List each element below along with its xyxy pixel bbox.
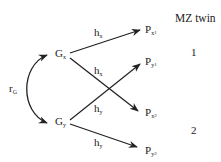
correlation-label: rG — [9, 83, 17, 95]
path-label-gy-py1: hy — [94, 103, 103, 115]
gene-gx: Gx — [55, 48, 66, 60]
path-label-gx-px2: hx — [94, 65, 103, 77]
phenotype-px2: Px2 — [145, 107, 157, 119]
twin-2-label: 2 — [191, 125, 197, 136]
path-label-gy-py2: hy — [94, 137, 103, 149]
path-gx-px2 — [70, 58, 138, 111]
mz-twin-header: MZ twin — [175, 13, 216, 25]
phenotype-py1: Py1 — [145, 56, 157, 68]
correlation-arc — [27, 55, 47, 123]
path-gy-py1 — [70, 64, 140, 120]
path-label-gx-px1: hx — [94, 27, 103, 39]
path-gx-px1 — [70, 30, 140, 53]
path-gy-py2 — [70, 124, 137, 147]
gene-gy: Gy — [55, 116, 66, 128]
twin-1-label: 1 — [191, 47, 197, 58]
phenotype-px1: Px1 — [145, 24, 157, 36]
phenotype-py2: Py2 — [145, 145, 157, 157]
